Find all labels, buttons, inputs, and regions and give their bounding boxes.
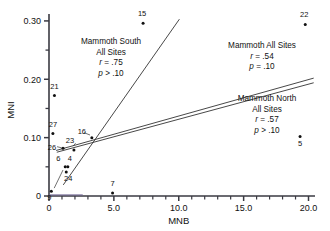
data-point-27 <box>51 132 54 135</box>
mammoth-all-annotation-stat: p = .10 <box>248 62 275 71</box>
data-point-label-26: 26 <box>48 143 56 152</box>
data-point-22 <box>304 23 307 26</box>
mammoth-north-annotation-line: Mammoth North <box>238 94 297 103</box>
y-tick-label: 0.30 <box>23 16 41 26</box>
y-tick-label: 0 <box>36 191 41 201</box>
x-tick-label: 0 <box>46 203 51 213</box>
data-point-4 <box>66 165 69 168</box>
data-point-label-7: 7 <box>110 179 114 188</box>
mammoth-north-annotation-stat: p > .10 <box>253 126 280 135</box>
mammoth-all-annotation-stat: r = .54 <box>250 52 274 61</box>
data-point-label-16: 16 <box>78 127 86 136</box>
mammoth-north-annotation-line: All Sites <box>252 105 282 114</box>
data-point-6 <box>64 165 67 168</box>
data-point-16 <box>90 136 93 139</box>
data-point-label-27: 27 <box>49 120 57 129</box>
scatter-plot-figure: 00.100.200.3005.010.015.020.0MNBMNI15222… <box>0 0 330 231</box>
leader-9 <box>54 170 63 188</box>
mammoth-south-annotation-line: Mammoth South <box>81 37 142 46</box>
data-point-label-22: 22 <box>300 10 308 19</box>
mammoth-south-annotation-stat: p > .10 <box>97 69 124 78</box>
y-tick-label: 0.10 <box>23 133 41 143</box>
data-point-label-6: 6 <box>56 154 60 163</box>
data-point-15 <box>142 22 145 25</box>
data-point-label-24: 24 <box>64 174 72 183</box>
data-point-5 <box>299 135 302 138</box>
x-tick-label: 20.0 <box>300 203 318 213</box>
data-point-26 <box>62 147 65 150</box>
x-axis-title: MNB <box>168 215 189 226</box>
x-tick-label: 15.0 <box>235 203 253 213</box>
data-point-label-4: 4 <box>68 154 72 163</box>
x-tick-label: 10.0 <box>170 203 188 213</box>
data-point-7 <box>111 192 114 195</box>
mammoth-north-annotation-stat: r = .57 <box>255 115 279 124</box>
data-point-label-5: 5 <box>298 139 302 148</box>
mammoth-all-annotation-line: Mammoth All Sites <box>228 41 296 50</box>
x-tick-label: 5.0 <box>108 203 121 213</box>
plot-canvas: 00.100.200.3005.010.015.020.0MNBMNI15222… <box>0 0 330 231</box>
data-point-23 <box>72 148 75 151</box>
data-point-label-23: 23 <box>66 136 74 145</box>
data-point-label-9: 9 <box>47 193 51 202</box>
leader-26 <box>57 147 62 148</box>
data-point-21 <box>53 94 56 97</box>
mammoth-south-annotation-stat: r = .75 <box>99 58 123 67</box>
data-point-label-15: 15 <box>138 9 146 18</box>
mammoth-south-annotation-line: All Sites <box>96 48 126 57</box>
data-point-label-21: 21 <box>50 82 58 91</box>
y-tick-label: 0.20 <box>23 75 41 85</box>
y-axis-title: MNI <box>5 101 16 118</box>
